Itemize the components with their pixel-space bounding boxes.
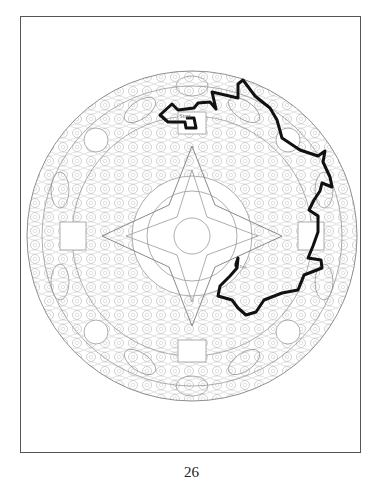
start-label: Start <box>179 113 191 119</box>
end-label: End <box>240 264 246 269</box>
page-number: 26 <box>0 464 383 481</box>
mandala-illustration: Start End <box>0 0 383 486</box>
mandala-disc <box>27 71 357 401</box>
